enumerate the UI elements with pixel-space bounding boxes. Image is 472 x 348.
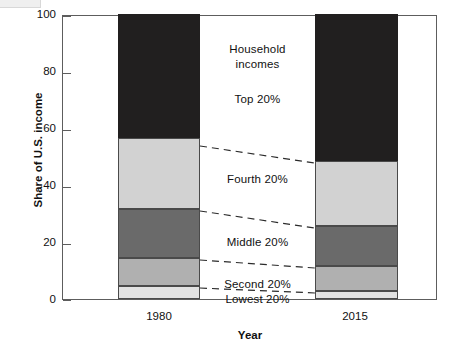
bar-1980-segment-fourth[interactable] xyxy=(118,138,200,209)
annotation-lowest-20: Lowest 20% xyxy=(200,293,315,305)
bar-2015-segment-fourth[interactable] xyxy=(315,161,398,227)
connector-middle-second xyxy=(200,260,315,268)
y-tick-label-100: 100 xyxy=(18,8,56,20)
y-tick-60 xyxy=(63,130,71,131)
y-tick-20 xyxy=(63,244,71,245)
y-tick-40 xyxy=(63,187,71,188)
bar-2015-segment-top[interactable] xyxy=(315,14,398,161)
annotation-household-line2: incomes xyxy=(200,58,315,70)
y-axis-title: Share of U.S. income xyxy=(32,92,44,207)
bar-1980-segment-second[interactable] xyxy=(118,258,200,287)
bar-2015-segment-lowest[interactable] xyxy=(315,291,398,300)
annotation-second-20: Second 20% xyxy=(200,278,315,290)
page-corner-shadow xyxy=(0,0,41,8)
bar-2015-segment-middle[interactable] xyxy=(315,226,398,266)
annotation-middle-20: Middle 20% xyxy=(200,236,315,248)
x-axis-title: Year xyxy=(190,329,310,341)
x-tick-label-1980: 1980 xyxy=(119,310,199,322)
y-tick-0 xyxy=(63,300,71,301)
plot-area: Household incomes Top 20% Fourth 20% Mid… xyxy=(62,15,437,300)
annotation-household-line1: Household xyxy=(200,43,315,55)
bar-1980[interactable] xyxy=(118,14,200,299)
bar-1980-segment-middle[interactable] xyxy=(118,209,200,258)
y-tick-80 xyxy=(63,73,71,74)
annotation-fourth-20: Fourth 20% xyxy=(200,173,315,185)
bar-2015-segment-second[interactable] xyxy=(315,266,398,290)
annotation-top-20: Top 20% xyxy=(200,93,315,105)
x-tick-label-2015: 2015 xyxy=(315,310,395,322)
y-tick-label-0: 0 xyxy=(18,293,56,305)
bar-2015[interactable] xyxy=(315,14,398,299)
y-tick-100 xyxy=(63,16,71,17)
connector-top-fourth xyxy=(200,146,315,163)
bar-1980-segment-lowest[interactable] xyxy=(118,286,200,299)
bar-1980-segment-top[interactable] xyxy=(118,14,200,138)
connector-fourth-middle xyxy=(200,211,315,228)
chart-figure: 100 80 60 40 20 0 Share of U.S. income xyxy=(0,0,472,348)
